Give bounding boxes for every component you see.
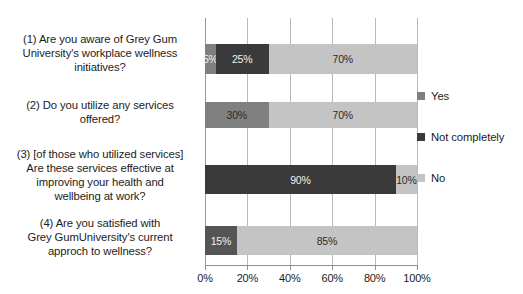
x-axis-tick-label: 100% <box>403 272 430 284</box>
x-axis-line <box>205 265 417 266</box>
bar-stack: 30%70% <box>205 102 417 128</box>
x-axis-tick <box>205 265 206 270</box>
category-label-q1: (1) Are you aware of Grey GumUniversity'… <box>4 32 196 74</box>
x-axis-tick-label: 60% <box>321 272 342 284</box>
bar-stack: 15%85% <box>205 226 417 255</box>
x-axis-tick <box>417 265 418 270</box>
bar-segment-not-completely[interactable]: 25% <box>216 44 269 74</box>
x-axis-tick <box>247 265 248 270</box>
bar-segment-no[interactable]: 70% <box>269 102 417 128</box>
category-label-line: University's workplace wellness <box>4 46 196 60</box>
category-axis-labels: (1) Are you aware of Grey GumUniversity'… <box>0 18 200 265</box>
legend-swatch-icon <box>417 174 425 182</box>
category-label-line: offered? <box>4 112 196 126</box>
bar-segment-value-label: 70% <box>333 109 353 121</box>
category-label-line: (1) Are you aware of Grey Gum <box>4 32 196 46</box>
bar-row-q4: 15%85% <box>205 226 417 255</box>
stacked-bar-chart: (1) Are you aware of Grey GumUniversity'… <box>0 0 523 294</box>
bar-segment-value-label: 85% <box>317 235 337 247</box>
category-label-q2: (2) Do you utilize any servicesoffered? <box>4 98 196 126</box>
bar-stack: 90%10% <box>205 165 417 194</box>
bar-segment-yes[interactable]: 5% <box>205 44 216 74</box>
bar-segment-value-label: 30% <box>227 109 247 121</box>
legend-item-no[interactable]: No <box>417 170 523 186</box>
category-label-line: (4) Are you satisfied with <box>4 216 196 230</box>
bar-row-q2: 30%70% <box>205 102 417 128</box>
legend-item-not-completely[interactable]: Not completely <box>417 129 523 145</box>
bar-segment-value-label: 25% <box>232 53 252 65</box>
category-label-line: Grey GumUniversity's current <box>4 230 196 244</box>
legend-item-yes[interactable]: Yes <box>417 88 523 104</box>
category-label-line: initiatives? <box>4 60 196 74</box>
bar-segment-value-label: 10% <box>396 174 416 186</box>
bar-segment-value-label: 90% <box>290 174 310 186</box>
x-axis-tick <box>290 265 291 270</box>
x-axis-tick-label: 0% <box>197 272 213 284</box>
legend-swatch-icon <box>417 92 425 100</box>
x-axis-tick-label: 80% <box>364 272 385 284</box>
category-label-line: approch to wellness? <box>4 244 196 258</box>
category-label-line: wellbeing at work? <box>4 189 196 203</box>
bar-segment-yes[interactable]: 15% <box>205 226 237 255</box>
legend-label: Not completely <box>431 131 504 143</box>
bar-segment-no[interactable]: 85% <box>237 226 417 255</box>
x-axis-tick-label: 40% <box>279 272 300 284</box>
x-axis-tick-label: 20% <box>237 272 258 284</box>
legend-label: No <box>431 172 445 184</box>
category-label-line: Are these services effective at <box>4 161 196 175</box>
category-label-line: (2) Do you utilize any services <box>4 98 196 112</box>
bar-segment-value-label: 70% <box>333 53 353 65</box>
category-label-line: improving your health and <box>4 175 196 189</box>
bar-segment-yes[interactable]: 30% <box>205 102 269 128</box>
legend: YesNot completelyNo <box>417 88 523 211</box>
category-label-line: (3) [of those who utilized services] <box>4 147 196 161</box>
bar-row-q3: 90%10% <box>205 165 417 194</box>
bar-row-q1: 5%25%70% <box>205 44 417 74</box>
legend-swatch-icon <box>417 133 425 141</box>
x-axis-tick <box>375 265 376 270</box>
bar-stack: 5%25%70% <box>205 44 417 74</box>
bar-segment-value-label: 15% <box>211 235 231 247</box>
bar-segment-no[interactable]: 10% <box>396 165 417 194</box>
bar-segment-not-completely[interactable]: 90% <box>205 165 396 194</box>
x-axis-tick <box>332 265 333 270</box>
category-label-q4: (4) Are you satisfied withGrey GumUniver… <box>4 216 196 258</box>
bar-segment-no[interactable]: 70% <box>269 44 417 74</box>
plot-area: 5%25%70%30%70%90%10%15%85% <box>205 18 417 265</box>
bar-rows: 5%25%70%30%70%90%10%15%85% <box>205 18 417 265</box>
category-label-q3: (3) [of those who utilized services]Are … <box>4 147 196 203</box>
x-axis-tick-labels: 0%20%40%60%80%100% <box>0 272 523 290</box>
legend-label: Yes <box>431 90 449 102</box>
